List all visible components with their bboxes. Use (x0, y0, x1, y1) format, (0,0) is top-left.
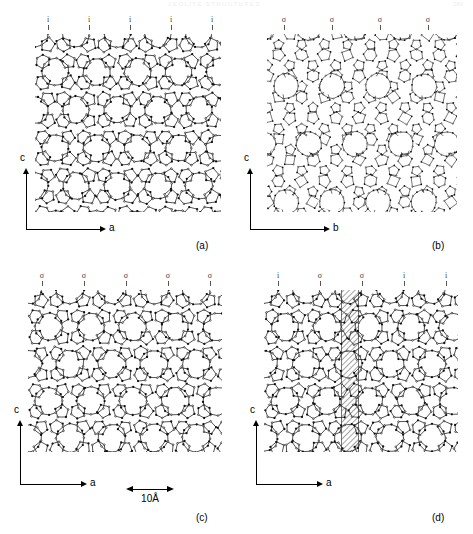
scale-bar-label: 10Å (124, 493, 176, 504)
marker-glyph: i (271, 272, 285, 280)
panel-a-caption: (a) (196, 240, 208, 251)
panel-a-marker-3: i (164, 16, 178, 30)
marker-tick (362, 281, 363, 286)
marker-glyph: σ (203, 272, 217, 280)
marker-tick (212, 25, 213, 30)
panel-c-marker-row: σ σ σ σ σ (0, 272, 236, 288)
axis-b-label: b (333, 222, 339, 233)
panel-c-axes: c a (12, 402, 122, 492)
marker-glyph: σ (421, 16, 435, 24)
marker-glyph: i (397, 272, 411, 280)
axis-a-line (20, 484, 82, 485)
scale-bar-arrow-left (126, 486, 133, 492)
axis-c-label: c (250, 404, 255, 415)
axis-a-line (26, 229, 101, 230)
axis-c-arrowhead (247, 168, 253, 174)
scale-bar: 10Å (124, 484, 178, 510)
axis-a-line (256, 484, 318, 485)
axis-a-label: a (109, 222, 115, 233)
marker-tick (168, 281, 169, 286)
marker-tick (446, 281, 447, 286)
panel-d: i σ σ i i (236, 262, 473, 534)
panel-b-marker-1: σ (325, 16, 339, 30)
panel-c: σ σ σ σ σ (0, 262, 236, 534)
panel-b-marker-3: σ (421, 16, 435, 30)
axis-c-line (26, 174, 27, 229)
axis-a-arrowhead (100, 226, 106, 232)
marker-tick (404, 281, 405, 286)
marker-glyph: σ (373, 16, 387, 24)
marker-tick (210, 281, 211, 286)
panel-c-caption: (c) (196, 512, 208, 523)
axis-a-label: a (90, 477, 96, 488)
panel-d-marker-1: σ (313, 272, 327, 286)
page-header: ZEOLITE STRUCTURES 189 (0, 0, 473, 12)
axis-c-label: c (20, 152, 25, 163)
panel-a-marker-1: i (82, 16, 96, 30)
panel-b: σ σ σ σ c (236, 12, 473, 262)
axis-a-label: a (326, 477, 332, 488)
panel-a: i i i i i (0, 12, 236, 262)
marker-glyph: i (41, 16, 55, 24)
panel-c-marker-2: σ (119, 272, 133, 286)
axis-c-arrowhead (23, 168, 29, 174)
page-number: 189 (453, 1, 463, 7)
marker-glyph: σ (161, 272, 175, 280)
scale-bar-arrow-right (167, 486, 174, 492)
marker-glyph: σ (355, 272, 369, 280)
marker-glyph: i (164, 16, 178, 24)
panel-c-marker-1: σ (77, 272, 91, 286)
axis-c-line (20, 426, 21, 484)
panel-c-marker-4: σ (203, 272, 217, 286)
scale-bar-line (132, 489, 168, 490)
marker-tick (42, 281, 43, 286)
panel-c-marker-3: σ (161, 272, 175, 286)
marker-tick (380, 25, 381, 30)
marker-tick (332, 25, 333, 30)
axis-c-label: c (244, 152, 249, 163)
panel-a-axes: c a (18, 152, 128, 232)
marker-glyph: σ (277, 16, 291, 24)
panel-b-axes: c b (242, 152, 352, 232)
axis-a-arrowhead (81, 481, 87, 487)
marker-glyph: σ (35, 272, 49, 280)
marker-tick (278, 281, 279, 286)
marker-tick (126, 281, 127, 286)
marker-tick (171, 25, 172, 30)
marker-glyph: σ (325, 16, 339, 24)
panel-d-caption: (d) (432, 512, 444, 523)
marker-tick (84, 281, 85, 286)
axis-c-line (256, 426, 257, 484)
axis-b-arrowhead (324, 226, 330, 232)
marker-tick (130, 25, 131, 30)
marker-tick (48, 25, 49, 30)
axis-a-arrowhead (317, 481, 323, 487)
marker-glyph: i (123, 16, 137, 24)
marker-glyph: σ (313, 272, 327, 280)
axis-c-arrowhead (17, 420, 23, 426)
panel-a-marker-4: i (205, 16, 219, 30)
panel-a-marker-0: i (41, 16, 55, 30)
panel-d-axes: c a (248, 402, 358, 492)
panel-a-marker-2: i (123, 16, 137, 30)
marker-tick (89, 25, 90, 30)
panel-b-marker-row: σ σ σ σ (236, 16, 473, 32)
marker-tick (284, 25, 285, 30)
panel-d-marker-0: i (271, 272, 285, 286)
panel-b-caption: (b) (432, 240, 444, 251)
marker-tick (428, 25, 429, 30)
panel-c-marker-0: σ (35, 272, 49, 286)
panel-a-marker-row: i i i i i (0, 16, 236, 32)
marker-glyph: σ (77, 272, 91, 280)
axis-b-line (250, 229, 325, 230)
axis-c-line (250, 174, 251, 229)
panel-d-marker-2: σ (355, 272, 369, 286)
marker-glyph: i (82, 16, 96, 24)
panel-b-marker-2: σ (373, 16, 387, 30)
marker-tick (320, 281, 321, 286)
panel-d-marker-row: i σ σ i i (236, 272, 473, 288)
marker-glyph: i (439, 272, 453, 280)
figure: i i i i i (0, 12, 473, 534)
running-head: ZEOLITE STRUCTURES (168, 1, 261, 7)
panel-d-marker-4: i (439, 272, 453, 286)
